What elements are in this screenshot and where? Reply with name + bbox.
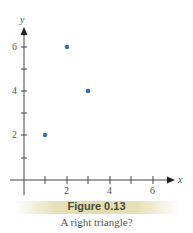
x-tick-label-6: 6 xyxy=(150,185,155,196)
y-tick-label-2: 2 xyxy=(12,129,17,140)
x-axis-label: x xyxy=(177,174,183,185)
point-2-6 xyxy=(65,45,69,49)
y-tick-label-4: 4 xyxy=(12,85,17,96)
x-tick-label-4: 4 xyxy=(107,185,112,196)
point-3-4 xyxy=(86,89,90,93)
x-axis-arrow-icon xyxy=(167,177,175,184)
x-tick-label-2: 2 xyxy=(64,185,69,196)
point-1-2 xyxy=(43,133,47,137)
figure-caption: A right triangle? xyxy=(0,216,193,228)
scatter-chart: y x 2 4 6 2 4 6 xyxy=(0,0,193,200)
y-axis-arrow-icon xyxy=(21,27,28,35)
y-tick-label-6: 6 xyxy=(12,41,17,52)
figure-title: Figure 0.13 xyxy=(0,200,193,212)
data-points xyxy=(43,45,90,137)
y-axis-label: y xyxy=(19,14,25,25)
